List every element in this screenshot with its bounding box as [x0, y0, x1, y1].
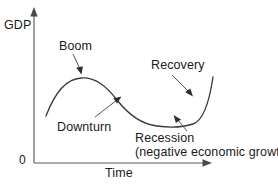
origin-label: 0 — [19, 154, 26, 167]
x-axis-label: Time — [105, 166, 133, 180]
annotation-recession-subtitle: (negative economic growth) — [135, 145, 278, 159]
diagram-canvas — [0, 0, 278, 189]
recovery-pointer-line — [172, 75, 189, 92]
y-axis-label: GDP — [4, 18, 31, 32]
downturn-pointer-line — [95, 100, 117, 117]
annotation-recession: Recession — [135, 131, 194, 145]
annotation-recovery: Recovery — [151, 58, 205, 72]
y-axis-arrowhead — [30, 7, 37, 17]
annotation-boom: Boom — [59, 39, 92, 53]
business-cycle-diagram: GDP Time 0 Boom Downturn Recovery Recess… — [0, 0, 278, 189]
annotation-downturn: Downturn — [57, 120, 111, 134]
boom-pointer-arrowhead — [76, 66, 83, 74]
x-axis-arrowhead — [203, 159, 213, 166]
boom-pointer-line — [73, 54, 80, 69]
